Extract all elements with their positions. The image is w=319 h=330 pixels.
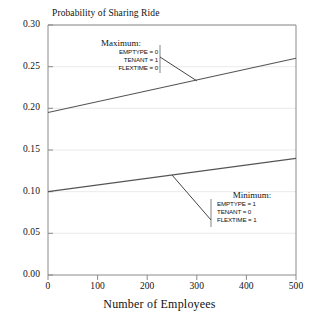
x-axis-title: Number of Employees <box>0 297 319 312</box>
x-tick-label: 100 <box>83 281 113 291</box>
maximum-leader-line <box>160 57 197 81</box>
minimum-annotation-line: FLEXTIME = 1 <box>217 216 292 224</box>
maximum-annotation-line: EMPTYPE = 0 <box>82 48 158 56</box>
minimum-annotation-line: EMPTYPE = 1 <box>217 200 292 208</box>
y-ticks <box>48 25 53 275</box>
x-tick-label: 300 <box>182 281 212 291</box>
chart-figure: Probability of Sharing Ride <box>0 0 319 330</box>
x-tick-label: 400 <box>231 281 261 291</box>
x-tick-label: 500 <box>281 281 311 291</box>
minimum-annotation: Minimum: EMPTYPE = 1 TENANT = 0 FLEXTIME… <box>212 190 292 225</box>
maximum-annotation-line: TENANT = 1 <box>82 56 158 64</box>
minimum-leader-line <box>172 175 211 220</box>
y-tick-label: 0.30 <box>10 19 40 29</box>
minimum-annotation-line: TENANT = 0 <box>217 208 292 216</box>
maximum-annotation-heading: Maximum: <box>82 38 160 48</box>
y-tick-label: 0.00 <box>10 269 40 279</box>
y-tick-label: 0.15 <box>10 144 40 154</box>
x-tick-label: 200 <box>132 281 162 291</box>
maximum-annotation: Maximum: EMPTYPE = 0 TENANT = 1 FLEXTIME… <box>82 38 160 73</box>
maximum-annotation-line: FLEXTIME = 0 <box>82 64 158 72</box>
y-tick-label: 0.20 <box>10 102 40 112</box>
x-ticks <box>48 275 296 280</box>
y-tick-label: 0.25 <box>10 61 40 71</box>
minimum-annotation-heading: Minimum: <box>212 190 292 200</box>
y-tick-label: 0.05 <box>10 227 40 237</box>
y-tick-label: 0.10 <box>10 186 40 196</box>
x-tick-label: 0 <box>33 281 63 291</box>
